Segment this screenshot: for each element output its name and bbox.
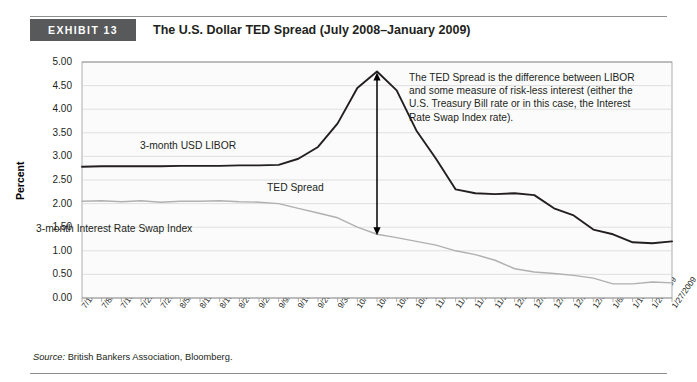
top-divider <box>30 16 667 17</box>
ted-spread-annotation: The TED Spread is the difference between… <box>409 71 641 124</box>
page-title: The U.S. Dollar TED Spread (July 2008–Ja… <box>153 19 471 41</box>
exhibit-badge: EXHIBIT 13 <box>30 19 136 41</box>
exhibit-header: EXHIBIT 13 The U.S. Dollar TED Spread (J… <box>30 19 667 41</box>
series-label-swap-index: 3-month Interest Rate Swap Index <box>36 223 192 234</box>
chart-container: Percent 0.000.501.001.502.002.503.003.50… <box>0 45 697 345</box>
bottom-divider <box>30 373 667 374</box>
exhibit-figure: EXHIBIT 13 The U.S. Dollar TED Spread (J… <box>0 0 697 382</box>
series-label-libor: 3-month USD LIBOR <box>140 140 236 151</box>
source-prefix: Source: <box>33 352 65 362</box>
source-text: British Bankers Association, Bloomberg. <box>65 352 232 362</box>
series-label-ted-spread: TED Spread <box>267 182 324 193</box>
source-note: Source: British Bankers Association, Blo… <box>33 352 232 362</box>
